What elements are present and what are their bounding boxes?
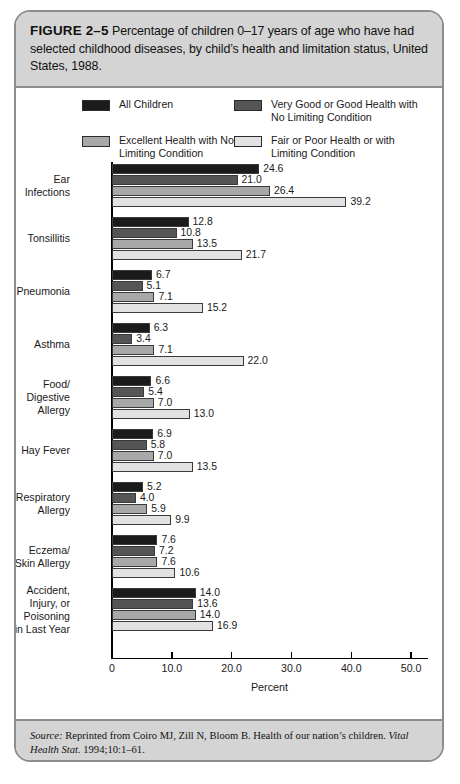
bar xyxy=(112,610,196,620)
plot-region: EarInfections24.621.026.439.2Tonsillitis… xyxy=(16,162,442,719)
bar xyxy=(112,281,143,291)
x-tick-0 xyxy=(111,652,112,659)
category-label-line: Tonsillitis xyxy=(14,232,70,245)
bar xyxy=(112,409,190,419)
bar-value-label: 9.9 xyxy=(175,514,189,525)
bar xyxy=(112,197,346,207)
bar-row: 6.7 xyxy=(112,270,442,280)
x-tick-label-20-0: 20.0 xyxy=(221,662,242,674)
bar xyxy=(112,535,157,545)
bar xyxy=(112,440,147,450)
bar-row: 7.6 xyxy=(112,557,442,567)
bar-group: Food/DigestiveAllergy6.65.47.013.0 xyxy=(16,376,442,420)
category-label-line: Digestive xyxy=(14,391,70,404)
bar-set: 24.621.026.439.2 xyxy=(112,164,442,208)
bar-row: 7.0 xyxy=(112,451,442,461)
legend-label-fair-poor: Fair or Poor Health or with Limiting Con… xyxy=(271,134,434,161)
x-tick-50-0 xyxy=(410,652,411,659)
bar-row: 7.0 xyxy=(112,398,442,408)
bar-row: 14.0 xyxy=(112,588,442,598)
figure-caption: FIGURE 2–5 Percentage of children 0–17 y… xyxy=(30,21,428,76)
x-tick-label-10-0: 10.0 xyxy=(161,662,182,674)
bar-value-label: 13.5 xyxy=(197,238,217,249)
bar-value-label: 22.0 xyxy=(248,355,268,366)
bar-group: Asthma6.33.47.122.0 xyxy=(16,323,442,367)
bar-row: 7.1 xyxy=(112,292,442,302)
bar xyxy=(112,588,196,598)
bar xyxy=(112,175,238,185)
bar-group: EarInfections24.621.026.439.2 xyxy=(16,164,442,208)
legend-label-all-children: All Children xyxy=(119,98,173,111)
chart-legend: All Children Very Good or Good Health wi… xyxy=(82,98,434,160)
category-label-line: Ear xyxy=(14,173,70,186)
bar-row: 21.7 xyxy=(112,250,442,260)
bar-row: 4.0 xyxy=(112,493,442,503)
bar-group: Hay Fever6.95.87.013.5 xyxy=(16,429,442,473)
x-tick-10-0 xyxy=(171,652,172,659)
source-body-2: 1994;10:1–61. xyxy=(81,744,145,755)
bar-row: 5.9 xyxy=(112,504,442,514)
bar-value-label: 5.1 xyxy=(147,280,161,291)
bar-row: 39.2 xyxy=(112,197,442,207)
legend-label-very-good-good: Very Good or Good Health with No Limitin… xyxy=(271,98,434,125)
x-tick-40-0 xyxy=(351,652,352,659)
bar-value-label: 21.7 xyxy=(246,249,266,260)
x-axis-line xyxy=(111,658,428,660)
bar-value-label: 3.4 xyxy=(136,333,150,344)
x-tick-30-0 xyxy=(291,652,292,659)
category-label-line: Poisoning xyxy=(14,610,70,623)
bar xyxy=(112,398,154,408)
bar-group: Pneumonia6.75.17.115.2 xyxy=(16,270,442,314)
bar-value-label: 10.6 xyxy=(179,567,199,578)
bar xyxy=(112,292,154,302)
category-label: Food/DigestiveAllergy xyxy=(14,378,70,417)
bar xyxy=(112,323,150,333)
bar xyxy=(112,462,193,472)
legend-item-all-children: All Children xyxy=(82,98,234,125)
bar-row: 5.4 xyxy=(112,387,442,397)
bar-value-label: 26.4 xyxy=(274,185,294,196)
bar-row: 14.0 xyxy=(112,610,442,620)
bar xyxy=(112,621,213,631)
bar-row: 7.6 xyxy=(112,535,442,545)
x-tick-label-40-0: 40.0 xyxy=(341,662,362,674)
figure-header: FIGURE 2–5 Percentage of children 0–17 y… xyxy=(16,12,442,88)
category-label-line: Pneumonia xyxy=(14,285,70,298)
figure-number: FIGURE 2–5 xyxy=(30,23,109,38)
category-label-line: Allergy xyxy=(14,504,70,517)
bar-set: 6.33.47.122.0 xyxy=(112,323,442,367)
x-tick-label-0: 0 xyxy=(109,662,115,674)
category-label: Tonsillitis xyxy=(14,232,70,245)
legend-swatch-all-children-icon xyxy=(82,100,110,111)
source-body-1: Reprinted from Coiro MJ, Zill N, Bloom B… xyxy=(63,730,389,741)
bar xyxy=(112,515,171,525)
bar-row: 5.1 xyxy=(112,281,442,291)
x-tick-label-50-0: 50.0 xyxy=(401,662,422,674)
bar-row: 26.4 xyxy=(112,186,442,196)
category-label: Eczema/Skin Allergy xyxy=(14,544,70,570)
x-tick-20-0 xyxy=(231,652,232,659)
bar-value-label: 7.1 xyxy=(158,291,172,302)
bar-value-label: 24.6 xyxy=(263,163,283,174)
category-label-line: Accident, xyxy=(14,584,70,597)
bar-set: 6.65.47.013.0 xyxy=(112,376,442,420)
bar-value-label: 7.0 xyxy=(158,397,172,408)
bar xyxy=(112,345,154,355)
bar xyxy=(112,387,144,397)
bar-row: 9.9 xyxy=(112,515,442,525)
bar xyxy=(112,599,193,609)
bar xyxy=(112,270,152,280)
category-label-line: Skin Allergy xyxy=(14,557,70,570)
bar-value-label: 21.0 xyxy=(242,174,262,185)
legend-swatch-very-good-good-icon xyxy=(234,100,262,111)
category-label-line: Asthma xyxy=(14,338,70,351)
category-label: Pneumonia xyxy=(14,285,70,298)
bar-value-label: 7.6 xyxy=(161,556,175,567)
category-label-line: Food/ xyxy=(14,378,70,391)
category-label-line: Respiratory xyxy=(14,491,70,504)
bar-row: 10.8 xyxy=(112,228,442,238)
bar-value-label: 16.9 xyxy=(217,620,237,631)
bar-row: 13.6 xyxy=(112,599,442,609)
bar-value-label: 6.3 xyxy=(154,322,168,333)
x-tick-label-30-0: 30.0 xyxy=(281,662,302,674)
